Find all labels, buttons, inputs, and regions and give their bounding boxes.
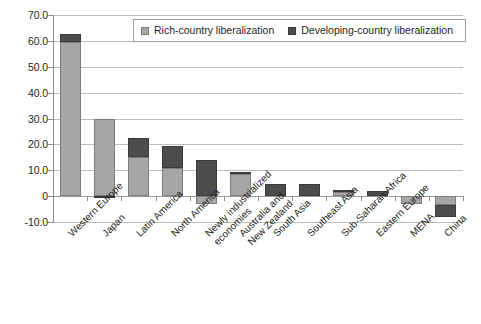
bar-segment-rich-country (401, 196, 422, 204)
y-axis-tick-label: 10.0 (4, 165, 48, 175)
bar-segment-developing-country (367, 191, 388, 196)
y-axis-tick (48, 41, 54, 42)
bar-segment-rich-country (162, 168, 183, 196)
y-axis-tick (48, 93, 54, 94)
x-axis-tick (87, 196, 88, 201)
legend-item-developing-country: Developing-country liberalization (288, 25, 453, 36)
bar-segment-developing-country (162, 146, 183, 168)
bar-segment-rich-country (435, 196, 456, 205)
legend-label-rich-country: Rich-country liberalization (154, 25, 274, 36)
developing-swatch-icon (288, 27, 296, 35)
x-axis-tick (429, 196, 430, 201)
x-axis-tick (121, 196, 122, 201)
y-axis-tick-label: 60.0 (4, 36, 48, 46)
chart-legend: Rich-country liberalization Developing-c… (133, 19, 466, 42)
y-axis-tick-label: 40.0 (4, 88, 48, 98)
bar-group (401, 0, 422, 324)
bar-segment-rich-country (333, 192, 354, 196)
bar-group (128, 0, 149, 324)
bar-segment-developing-country (299, 184, 320, 196)
bar-group (94, 0, 115, 324)
x-axis-tick (463, 196, 464, 201)
x-axis-tick (258, 196, 259, 201)
bar-segment-developing-country (333, 190, 354, 193)
y-axis-tick-label: 70.0 (4, 10, 48, 20)
bar-group (265, 0, 286, 324)
x-axis-tick (326, 196, 327, 201)
bar-segment-rich-country (60, 42, 81, 196)
bar-group (367, 0, 388, 324)
rich-swatch-icon (141, 27, 149, 35)
bar-segment-developing-country (435, 205, 456, 217)
bar-group (299, 0, 320, 324)
y-axis-tick-label: 30.0 (4, 114, 48, 124)
bar-segment-rich-country (94, 119, 115, 197)
bar-segment-developing-country (94, 196, 115, 198)
bar-segment-rich-country (128, 157, 149, 196)
x-axis-tick (224, 196, 225, 201)
bar-segment-developing-country (128, 138, 149, 157)
bar-segment-developing-country (265, 184, 286, 196)
bar-segment-rich-country (230, 174, 251, 196)
y-axis-tick-label: 0 (4, 191, 48, 201)
x-axis-tick (395, 196, 396, 201)
bar-segment-rich-country (196, 196, 217, 204)
y-axis-tick (48, 67, 54, 68)
y-axis-tick (48, 196, 54, 197)
x-axis-tick (292, 196, 293, 201)
bar-segment-developing-country (60, 34, 81, 42)
bar-group (333, 0, 354, 324)
y-axis-tick (48, 144, 54, 145)
y-axis-tick-label: -10.0 (4, 217, 48, 227)
bar-group (162, 0, 183, 324)
bar-group (196, 0, 217, 324)
x-axis-tick (190, 196, 191, 201)
y-axis-tick (48, 222, 54, 223)
bar-group (435, 0, 456, 324)
y-axis-tick (48, 170, 54, 171)
legend-item-rich-country: Rich-country liberalization (141, 25, 274, 36)
bar-segment-developing-country (196, 160, 217, 196)
bar-chart: 70.060.050.040.030.020.010.00-10.0 Rich-… (0, 0, 481, 324)
x-axis-tick (361, 196, 362, 201)
y-axis-tick (48, 119, 54, 120)
bar-group (60, 0, 81, 324)
bar-segment-developing-country (230, 172, 251, 175)
bar-group (230, 0, 251, 324)
x-axis-tick (156, 196, 157, 201)
y-axis-tick-label: 20.0 (4, 139, 48, 149)
legend-label-developing-country: Developing-country liberalization (301, 25, 453, 36)
y-axis-tick (48, 15, 54, 16)
y-axis-tick-label: 50.0 (4, 62, 48, 72)
